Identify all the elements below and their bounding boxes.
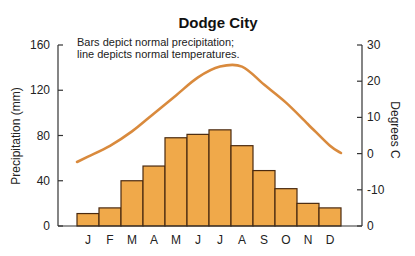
month-label: A [150, 233, 158, 247]
precipitation-bar [319, 208, 341, 226]
month-label: D [326, 233, 335, 247]
precipitation-bars [77, 130, 341, 226]
month-label: J [217, 233, 223, 247]
precipitation-bar [253, 171, 275, 226]
precipitation-bar [121, 181, 143, 226]
month-label: O [281, 233, 290, 247]
y-tick-label: 80 [37, 129, 51, 143]
y-tick-label: 160 [30, 38, 50, 52]
climate-chart: Dodge City Bars depict normal precipitat… [0, 0, 415, 256]
y2-tick-label: -10 [367, 183, 385, 197]
y-axis-title: Precipitation (mm) [9, 87, 23, 184]
precipitation-bar [231, 146, 253, 226]
month-label: M [127, 233, 137, 247]
month-label: M [171, 233, 181, 247]
month-label: J [85, 233, 91, 247]
chart-title: Dodge City [178, 14, 258, 31]
precipitation-bar [99, 208, 121, 226]
month-label: J [195, 233, 201, 247]
y2-tick-label: 30 [367, 38, 381, 52]
month-label: N [304, 233, 313, 247]
month-label: A [238, 233, 246, 247]
y2-tick-label: 0 [367, 147, 374, 161]
precipitation-bar [275, 189, 297, 226]
x-axis-labels: JFMAMJJASOND [85, 233, 335, 247]
annotation-line-1: Bars depict normal precipitation; [77, 36, 234, 48]
month-label: S [260, 233, 268, 247]
precipitation-bar [187, 134, 209, 226]
y2-tick-label: 20 [367, 74, 381, 88]
y2-tick-label: 10 [367, 110, 381, 124]
right-axis: 0-100102030 [357, 38, 385, 233]
precipitation-bar [297, 203, 319, 226]
y-tick-label: 0 [43, 219, 50, 233]
month-label: F [106, 233, 113, 247]
y2-tick-label: 0 [367, 219, 374, 233]
y-tick-label: 40 [37, 174, 51, 188]
precipitation-bar [77, 214, 99, 226]
precipitation-bar [143, 166, 165, 226]
precipitation-bar [209, 130, 231, 226]
annotation-line-2: line depicts normal temperatures. [77, 48, 240, 60]
y2-axis-title: Degrees C [388, 101, 402, 159]
precipitation-bar [165, 138, 187, 226]
y-tick-label: 120 [30, 83, 50, 97]
